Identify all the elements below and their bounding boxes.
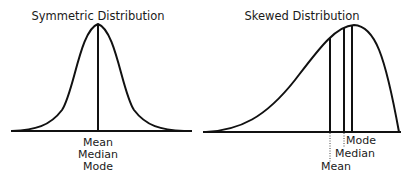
skewed-label-median: Median (335, 147, 375, 160)
symmetric-label-mode: Mode (83, 160, 113, 173)
skewed-label-mode: Mode (346, 134, 376, 147)
distribution-diagram: Symmetric Distribution Mean Median Mode … (0, 0, 411, 186)
symmetric-title: Symmetric Distribution (31, 9, 164, 23)
skewed-label-mean: Mean (321, 160, 351, 173)
skewed-panel: Skewed Distribution Mode Median Mean (203, 9, 401, 173)
skewed-curve (206, 25, 399, 132)
symmetric-panel: Symmetric Distribution Mean Median Mode (11, 9, 192, 173)
skewed-title: Skewed Distribution (244, 9, 359, 23)
